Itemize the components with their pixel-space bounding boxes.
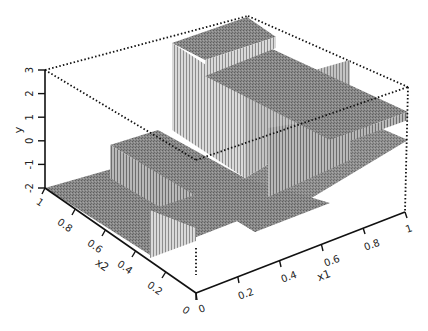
x1-tick-label: 0.2 bbox=[236, 286, 255, 302]
y-tick-label: -1 bbox=[24, 159, 35, 169]
x2-tick-label: 0.6 bbox=[85, 237, 104, 255]
y-tick-label: 0 bbox=[24, 138, 35, 144]
x2-tick-label: 0.8 bbox=[55, 216, 74, 234]
x1-tick-label: 1 bbox=[404, 222, 414, 235]
x1-tick-labels: 0 0.2 0.4 0.6 0.8 1 x1 bbox=[197, 222, 414, 315]
surface bbox=[45, 17, 408, 258]
y-ticks bbox=[38, 70, 45, 188]
x2-tick-label: 0.2 bbox=[145, 279, 164, 297]
x1-tick-label: 0.8 bbox=[362, 237, 381, 253]
y-tick-label: 1 bbox=[24, 114, 35, 120]
x1-tick-label: 0.4 bbox=[279, 269, 298, 285]
y-tick-label: 3 bbox=[24, 67, 35, 73]
x2-tick-label: 0 bbox=[180, 304, 192, 317]
x2-tick-label: 0.4 bbox=[115, 258, 134, 276]
x1-ticks bbox=[196, 212, 407, 300]
x1-axis-label: x1 bbox=[315, 267, 332, 284]
x1-tick-label: 0 bbox=[197, 302, 207, 315]
surface-plot: -2 -1 0 1 2 3 y 0 0.2 0.4 0.6 0.8 1 x2 0… bbox=[0, 0, 428, 331]
y-axis-label: y bbox=[12, 126, 25, 133]
x1-tick-label: 0.6 bbox=[322, 253, 341, 269]
y-tick-label: 2 bbox=[24, 90, 35, 96]
x2-tick-label: 1 bbox=[34, 196, 46, 209]
y-tick-label: -2 bbox=[24, 183, 35, 193]
y-tick-labels: -2 -1 0 1 2 3 y bbox=[12, 67, 35, 193]
x2-axis-label: x2 bbox=[93, 256, 112, 274]
